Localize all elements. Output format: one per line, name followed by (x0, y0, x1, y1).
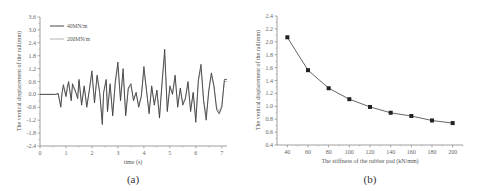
data-point-marker (451, 121, 455, 125)
y-tick-label: -0.6 (27, 104, 37, 110)
x-tick-label: 140 (386, 149, 395, 155)
data-point-marker (389, 111, 393, 115)
data-point-marker (409, 114, 413, 118)
x-tick-label: 160 (407, 149, 416, 155)
chart-a-legend: 40MN/m200MN/m (50, 23, 91, 42)
chart-a-caption: (a) (127, 173, 140, 186)
data-point-marker (430, 118, 434, 122)
y-tick-label: 1.4 (266, 78, 274, 84)
data-point-marker (347, 97, 351, 101)
chart-a: -2.4-1.8-1.2-0.60.00.61.21.82.43.03.6012… (16, 14, 227, 186)
y-tick-label: 1.6 (266, 65, 274, 71)
x-tick-label: 3 (116, 150, 119, 156)
x-tick-label: 200 (448, 149, 457, 155)
data-point-marker (368, 105, 372, 109)
chart-b-y-axis-title: The vertical displacement of the rail(mm… (255, 30, 262, 130)
series-line (40, 56, 227, 121)
chart-b-series (285, 35, 454, 125)
x-tick-label: 7 (220, 150, 223, 156)
x-tick-label: 2 (90, 150, 93, 156)
y-tick-label: 1.8 (29, 53, 37, 59)
x-tick-label: 1 (64, 150, 67, 156)
y-tick-label: 1.8 (266, 52, 274, 58)
legend-label: 200MN/m (67, 36, 91, 42)
chart-b: 0.40.60.81.01.21.41.61.82.02.22.44060801… (255, 13, 463, 186)
x-tick-label: 80 (326, 149, 332, 155)
y-tick-label: 1.0 (266, 103, 274, 109)
y-tick-label: 0.8 (266, 116, 274, 122)
y-tick-label: 0.6 (29, 79, 37, 85)
data-point-marker (327, 86, 331, 90)
y-tick-label: 2.4 (266, 13, 274, 19)
y-tick-label: -1.2 (27, 117, 37, 123)
x-tick-label: 40 (284, 149, 290, 155)
chart-b-axes: 0.40.60.81.01.21.41.61.82.02.22.44060801… (266, 13, 464, 155)
y-tick-label: -1.8 (27, 130, 37, 136)
x-tick-label: 5 (168, 150, 171, 156)
y-tick-label: 0.0 (29, 91, 37, 97)
data-point-marker (285, 35, 289, 39)
x-tick-label: 0 (39, 150, 42, 156)
figure: -2.4-1.8-1.2-0.60.00.61.21.82.43.03.6012… (0, 0, 483, 191)
chart-a-x-axis-title: time (s) (124, 159, 143, 166)
x-tick-label: 4 (142, 150, 145, 156)
chart-b-x-axis-title: The stiffness of the rubber pad (kN/mm) (321, 158, 418, 165)
y-tick-label: 1.2 (266, 90, 274, 96)
x-tick-label: 60 (305, 149, 311, 155)
legend-label: 40MN/m (67, 23, 88, 29)
y-tick-label: 0.6 (266, 129, 274, 135)
chart-a-y-axis-title: The vertical displacement of the rail(mm… (16, 31, 23, 131)
y-tick-label: 1.2 (29, 66, 37, 72)
y-tick-label: 2.4 (29, 40, 37, 46)
x-tick-label: 100 (345, 149, 354, 155)
chart-a-series (40, 49, 227, 124)
chart-b-caption: (b) (364, 173, 377, 186)
x-tick-label: 180 (428, 149, 437, 155)
y-tick-label: 2.2 (266, 26, 274, 32)
y-tick-label: 2.0 (266, 39, 274, 45)
data-point-marker (306, 68, 310, 72)
x-tick-label: 6 (194, 150, 197, 156)
y-tick-label: 3.0 (29, 27, 37, 33)
y-tick-label: -2.4 (27, 143, 37, 149)
chart-a-axes: -2.4-1.8-1.2-0.60.00.61.21.82.43.03.6012… (27, 14, 228, 156)
x-tick-label: 120 (366, 149, 375, 155)
y-tick-label: 3.6 (29, 14, 37, 20)
series-line (287, 37, 452, 123)
y-tick-label: 0.4 (266, 142, 274, 148)
